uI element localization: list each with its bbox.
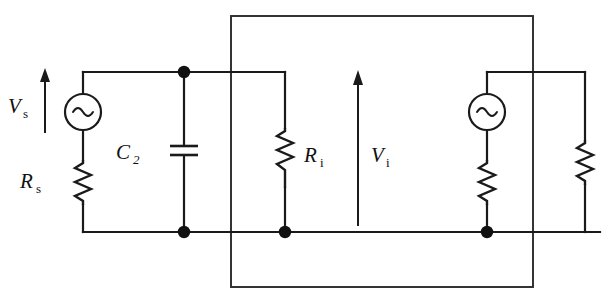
vi-label-symbol: V [371,143,386,167]
rs-label-symbol: R [19,169,33,193]
vs-label-subscript: s [23,106,28,121]
ri-resistor [277,128,293,188]
rs-label: R s [19,169,41,196]
circuit-canvas: V s R s C 2 R i [0,0,615,306]
vi-label: V i [371,143,390,170]
c2-capacitor [170,72,198,232]
vs-label: V s [8,94,28,121]
vs-source [65,94,101,130]
junction-dots [178,66,493,238]
far-right-resistor-branch [577,72,593,232]
circuit-diagram: V s R s C 2 R i [0,0,615,306]
ri-label: R i [303,143,324,170]
vi-label-subscript: i [386,155,390,170]
vs-label-symbol: V [8,94,23,118]
c2-label-symbol: C [116,140,131,164]
c2-label-subscript: 2 [133,152,140,167]
rs-label-subscript: s [36,181,41,196]
node-bottom-right-src [481,226,493,238]
node-bottom-ri [279,226,291,238]
c2-label: C 2 [116,140,140,167]
vs-arrow [40,68,50,133]
right-source-resistor [479,160,495,205]
ri-label-symbol: R [303,143,317,167]
right-source [469,94,505,130]
ri-label-subscript: i [320,155,324,170]
top-wire-to-ri [184,72,285,232]
node-bottom-mid-left [178,226,190,238]
rs-resistor [75,160,91,205]
node-top-mid [178,66,190,78]
right-source-branch [487,72,585,232]
vi-arrow [353,70,363,226]
